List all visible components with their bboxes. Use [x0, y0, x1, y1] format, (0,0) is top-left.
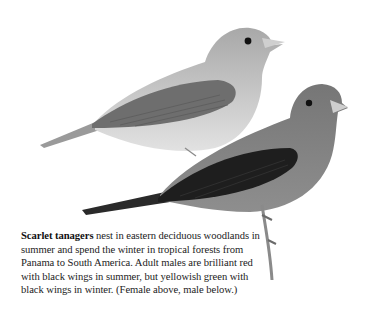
male-eye — [306, 100, 312, 106]
caption: Scarlet tanagers nest in eastern deciduo… — [21, 229, 271, 297]
caption-species: Scarlet tanagers — [21, 230, 93, 241]
female-eye — [245, 38, 252, 45]
male-tail — [82, 192, 170, 215]
